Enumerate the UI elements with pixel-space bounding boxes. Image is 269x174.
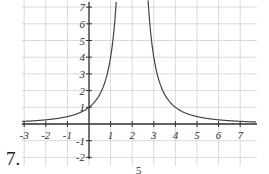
x-tick-label: 3: [150, 129, 157, 141]
y-tick-label: 2: [80, 85, 86, 97]
x-tick-label: -1: [63, 129, 72, 141]
graph: -3-2-11234567-2-11234567 5: [0, 0, 269, 174]
grid-lines: [22, 0, 257, 166]
problem-number: 7.: [6, 148, 20, 170]
x-tick-label: 5: [194, 129, 200, 141]
x-tick-label: 2: [129, 129, 135, 141]
y-tick-label: 7: [80, 1, 86, 13]
tick-labels: -3-2-11234567-2-11234567: [20, 1, 244, 163]
x-tick-label: 6: [216, 129, 222, 141]
y-tick-label: 6: [80, 18, 86, 30]
function-curve: [22, 0, 256, 122]
x-tick-label: 4: [173, 129, 179, 141]
x-tick-label: -2: [41, 129, 51, 141]
y-tick-label: 3: [79, 68, 86, 80]
y-tick-label: 5: [80, 35, 86, 47]
curve-left-branch: [22, 2, 116, 121]
x-tick-label: -3: [20, 129, 30, 141]
y-tick-label: 4: [80, 51, 86, 63]
y-tick-label: -1: [76, 135, 85, 147]
x-tick-label: 7: [237, 129, 243, 141]
x-tick-label: 1: [108, 129, 114, 141]
y-tick-label: -2: [76, 151, 86, 163]
axes: [22, 2, 257, 159]
next-problem-fragment: 5: [136, 164, 142, 174]
